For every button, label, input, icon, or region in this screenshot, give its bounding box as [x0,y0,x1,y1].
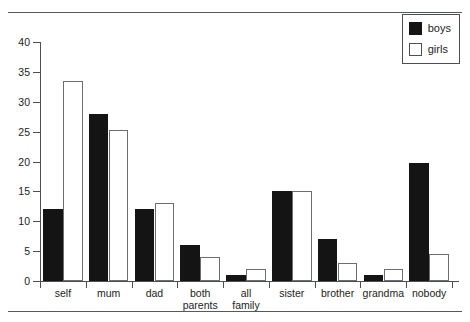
bar-boys-brother [318,239,338,281]
y-tick-label-25: 25 [0,127,30,137]
top-rule [8,12,462,13]
x-tick-1 [86,281,87,288]
y-tick-label-5: 5 [0,246,30,256]
x-axis-label-line: nobody [398,288,460,300]
legend-swatch-girls-icon [409,43,422,56]
x-tick-edge-0 [40,281,41,288]
x-tick-5 [269,281,270,288]
x-axis-line [33,281,459,282]
legend-item-boys: boys [409,20,451,37]
x-axis-label-line: family [215,300,277,312]
x-tick-edge-9 [452,281,453,288]
bar-boys-dad [135,209,155,281]
y-tick-label-35: 35 [0,67,30,77]
y-tick-label-20: 20 [0,157,30,167]
bar-girls-brother [338,263,358,281]
legend-swatch-boys-icon [409,22,422,35]
bar-girls-self [63,81,83,281]
legend-item-girls: girls [409,41,451,58]
bar-girls-mum [109,130,129,281]
x-tick-7 [360,281,361,288]
x-tick-3 [177,281,178,288]
bar-girls-dad [155,203,175,281]
legend-label-boys: boys [428,23,451,34]
bar-boys-both-parents [180,245,200,281]
bottom-rule [8,311,462,312]
bar-girls-grandma [384,269,404,281]
x-tick-2 [132,281,133,288]
y-tick-label-0: 0 [0,276,30,286]
x-tick-8 [406,281,407,288]
bar-boys-nobody [409,163,429,281]
bar-boys-self [43,209,63,281]
bar-girls-nobody [429,254,449,281]
bar-boys-mum [89,114,109,281]
y-tick-label-40: 40 [0,37,30,47]
chart-legend: boys girls [402,14,460,64]
legend-label-girls: girls [428,44,448,55]
bar-boys-all-family [226,275,246,281]
x-tick-6 [315,281,316,288]
bar-girls-all-family [246,269,266,281]
y-tick-label-30: 30 [0,97,30,107]
y-tick-label-10: 10 [0,216,30,226]
figure: 0510152025303540 selfmumdadbothparentsal… [0,0,470,322]
x-axis-label-nobody: nobody [398,288,460,300]
plot-area [40,42,452,281]
bar-boys-sister [272,191,292,281]
x-tick-4 [223,281,224,288]
y-tick-label-15: 15 [0,186,30,196]
bar-boys-grandma [364,275,384,281]
bar-girls-sister [292,191,312,281]
bar-girls-both-parents [200,257,220,281]
